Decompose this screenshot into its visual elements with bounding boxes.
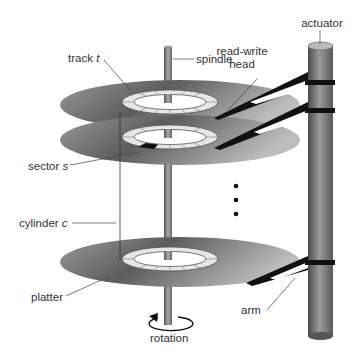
platter-middle	[60, 115, 300, 165]
label-cylinder: cylinder c	[19, 217, 68, 229]
label-platter: platter	[31, 291, 63, 303]
label-read-write-head-2: head	[229, 58, 255, 70]
ellipsis-dots	[234, 184, 239, 217]
label-read-write-head-1: read-write	[216, 45, 267, 57]
label-actuator: actuator	[301, 17, 343, 29]
leader-platter	[66, 276, 110, 296]
label-sector: sector s	[28, 160, 69, 172]
label-arm: arm	[241, 304, 261, 316]
label-track: track t	[68, 52, 100, 64]
actuator	[308, 42, 333, 340]
label-rotation: rotation	[150, 332, 188, 344]
disk-mechanism-diagram: track t spindle read-write head actuator…	[0, 0, 357, 361]
leader-arm	[267, 278, 295, 310]
